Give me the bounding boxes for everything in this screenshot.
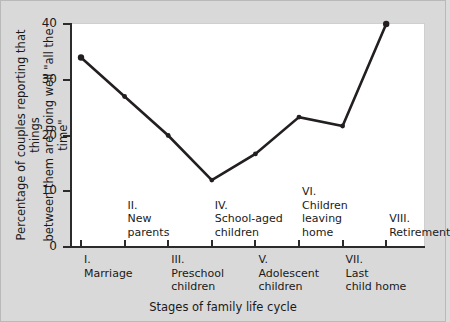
stage-label-vi: VI. Children leaving home: [302, 185, 348, 239]
stage-label-ii: II. New parents: [128, 199, 170, 240]
data-point: [340, 124, 345, 129]
y-axis-title-line-2: between them are going well "all the tim…: [42, 15, 70, 255]
data-point: [78, 54, 84, 60]
y-axis-title: Percentage of couples reporting that thi…: [14, 15, 70, 255]
stage-label-i: I. Marriage: [84, 253, 133, 280]
data-point: [253, 151, 258, 156]
stage-label-iii: III. Preschool children: [171, 253, 224, 294]
data-point: [383, 21, 389, 27]
stage-label-v: V. Adolescent children: [258, 253, 319, 294]
x-axis-title: Stages of family life cycle: [0, 300, 446, 314]
data-point: [122, 94, 127, 99]
stage-label-iv: IV. School-aged children: [215, 199, 283, 240]
stage-label-viii: VIII. Retirement: [389, 212, 450, 239]
data-point: [209, 178, 214, 183]
data-point: [297, 115, 302, 120]
y-axis-title-line-1: Percentage of couples reporting that thi…: [14, 15, 42, 255]
data-point: [166, 133, 171, 138]
stage-label-vii: VII. Last child home: [346, 253, 407, 294]
